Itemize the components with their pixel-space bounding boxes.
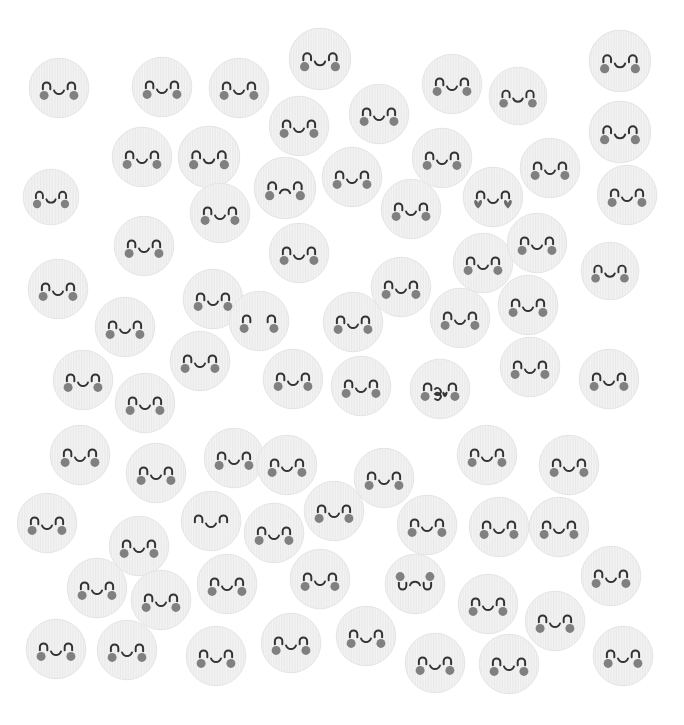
face-head — [479, 634, 539, 694]
face-normal — [16, 492, 78, 554]
face-head — [469, 497, 529, 557]
face-head — [500, 337, 560, 397]
face-normal — [288, 27, 352, 91]
face-normal — [506, 212, 568, 274]
face-normal — [49, 424, 111, 486]
face-normal — [335, 605, 397, 667]
face-normal — [289, 548, 351, 610]
face-normal — [380, 178, 442, 240]
face-normal — [52, 349, 114, 411]
face-head — [178, 126, 239, 187]
face-normal — [125, 442, 187, 504]
face-head — [28, 259, 88, 319]
face-frown — [253, 156, 317, 220]
face-head — [269, 223, 329, 283]
face-head — [170, 331, 230, 391]
face-head — [229, 291, 289, 351]
face-normal — [592, 625, 654, 687]
face-head — [67, 558, 127, 618]
face-head — [289, 28, 350, 89]
face-normal — [111, 126, 173, 188]
face-head — [290, 549, 350, 609]
face-head — [430, 288, 490, 348]
face-normal — [208, 57, 270, 119]
face-head — [381, 179, 441, 239]
face-normal — [348, 83, 410, 145]
face-head — [126, 443, 186, 503]
face-normal — [114, 372, 176, 434]
face-head — [197, 554, 257, 614]
face-head — [489, 67, 547, 125]
face-normal — [396, 494, 458, 556]
face-head — [23, 169, 79, 225]
face-normal — [322, 291, 384, 353]
face-head — [397, 495, 457, 555]
face-head — [457, 425, 517, 485]
face-normal — [588, 29, 652, 93]
face-head — [520, 138, 580, 198]
face-head — [53, 350, 113, 410]
face-normal — [96, 619, 158, 681]
face-head — [422, 54, 482, 114]
face-kiss — [409, 358, 471, 420]
face-normal — [177, 125, 241, 189]
face-head — [254, 157, 315, 218]
face-normal — [196, 553, 258, 615]
face-normal — [578, 348, 640, 410]
face-normal — [404, 632, 466, 694]
face-head — [50, 425, 110, 485]
face-head — [507, 213, 567, 273]
face-normal — [131, 56, 193, 118]
face-normal — [321, 146, 383, 208]
pattern-canvas — [0, 0, 684, 725]
face-normal — [588, 100, 652, 164]
face-normal — [28, 57, 90, 119]
face-head — [405, 633, 465, 693]
face-normal — [303, 480, 365, 542]
face-normal — [497, 274, 559, 336]
face-head — [95, 297, 155, 357]
face-head — [132, 57, 192, 117]
face-head — [181, 491, 241, 551]
face-head — [114, 216, 174, 276]
face-head — [17, 493, 77, 553]
face-normal — [22, 168, 80, 226]
face-head — [579, 349, 639, 409]
face-normal — [185, 625, 247, 687]
face-head — [539, 435, 599, 495]
face-normal — [66, 557, 128, 619]
face-normal — [260, 612, 322, 674]
face-normal — [268, 222, 330, 284]
face-normal — [25, 618, 87, 680]
face-head — [322, 147, 382, 207]
face-no_mouth — [228, 290, 290, 352]
face-head — [97, 620, 157, 680]
face-head — [336, 606, 396, 666]
face-head — [331, 356, 391, 416]
face-normal — [478, 633, 540, 695]
face-normal — [538, 434, 600, 496]
face-head — [589, 101, 650, 162]
face-head — [581, 242, 639, 300]
face-head — [581, 546, 641, 606]
face-head — [209, 58, 269, 118]
face-normal — [596, 164, 658, 226]
face-normal — [519, 137, 581, 199]
face-head — [458, 574, 518, 634]
face-head — [323, 292, 383, 352]
face-normal — [499, 336, 561, 398]
face-head — [263, 349, 323, 409]
face-head — [190, 183, 250, 243]
face-head — [593, 626, 653, 686]
face-head — [261, 613, 321, 673]
face-head — [304, 481, 364, 541]
face-head — [186, 626, 246, 686]
face-normal — [113, 215, 175, 277]
face-normal — [580, 545, 642, 607]
face-normal — [27, 258, 89, 320]
face-normal — [330, 355, 392, 417]
face-head — [589, 30, 650, 91]
face-head — [269, 96, 329, 156]
face-normal — [456, 424, 518, 486]
face-head — [29, 58, 89, 118]
